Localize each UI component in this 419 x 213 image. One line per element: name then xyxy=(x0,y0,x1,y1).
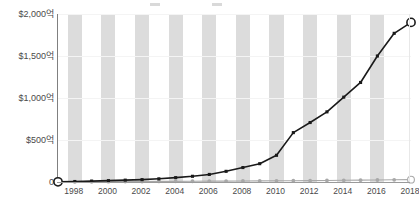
plot-right-border xyxy=(409,14,410,182)
data-point-square xyxy=(174,176,177,179)
data-point-square xyxy=(141,178,144,181)
legend-swatch xyxy=(150,3,160,6)
x-axis-baseline xyxy=(57,182,410,183)
legend-entry xyxy=(212,1,224,7)
data-point-square xyxy=(393,32,396,35)
legend-entry xyxy=(150,1,162,7)
x-axis-tick-label: 1998 xyxy=(64,186,83,197)
data-point-square xyxy=(258,162,261,165)
legend-swatch xyxy=(212,3,222,6)
x-axis-tick-label: 2002 xyxy=(132,186,151,197)
y-axis-tick-label: $1,000억 xyxy=(0,93,54,103)
x-axis-tick-label: 2010 xyxy=(266,186,285,197)
data-point-square xyxy=(325,110,328,113)
data-point-square xyxy=(157,177,160,180)
x-axis-tick-label: 2012 xyxy=(300,186,319,197)
series-1-group xyxy=(54,18,415,186)
y-axis-tick-label: $2,000억 xyxy=(0,9,54,19)
data-point-square xyxy=(376,54,379,57)
data-point-square xyxy=(191,175,194,178)
data-series-layer xyxy=(58,14,411,182)
data-point-square xyxy=(359,81,362,84)
chart-screenshot: 0$500억$1,000억$1,500억$2,000억 199820002002… xyxy=(0,0,419,213)
x-axis-tick-label: 2004 xyxy=(165,186,184,197)
plot-area xyxy=(57,14,411,182)
data-point-square xyxy=(225,170,228,173)
y-axis-tick-labels: 0$500억$1,000억$1,500억$2,000억 xyxy=(0,0,54,213)
data-point-square xyxy=(342,96,345,99)
data-point-square xyxy=(241,166,244,169)
data-point-square xyxy=(275,154,278,157)
x-axis-tick-labels: 1998200020022004200620082010201220142016… xyxy=(0,186,419,202)
data-point-square xyxy=(208,173,211,176)
x-axis-tick-label: 2006 xyxy=(199,186,218,197)
data-point-square xyxy=(292,131,295,134)
x-axis-tick-label: 2014 xyxy=(333,186,352,197)
x-axis-tick-label: 2018 xyxy=(401,186,419,197)
x-axis-tick-label: 2008 xyxy=(232,186,251,197)
series-line xyxy=(58,22,411,181)
data-point-square xyxy=(309,121,312,124)
y-axis-tick-label: $1,500억 xyxy=(0,51,54,61)
x-axis-tick-label: 2000 xyxy=(98,186,117,197)
x-axis-tick-label: 2016 xyxy=(367,186,386,197)
y-axis-tick-label: $500억 xyxy=(0,135,54,145)
chart-legend xyxy=(150,0,270,7)
